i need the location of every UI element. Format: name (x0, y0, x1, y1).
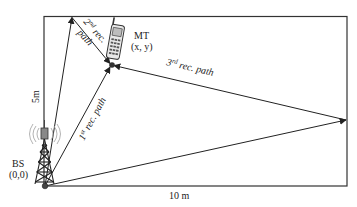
path-3-label: 3rd rec. path (165, 56, 216, 78)
bs-label: BS (12, 158, 24, 169)
multipath-diagram: BS (0,0) MT (x, y) 10 m 5m 1st rec. path… (0, 0, 357, 207)
path-3-segment-b (114, 66, 346, 121)
radio-tower-icon (30, 120, 61, 184)
path-1-label: 1st rec. path (76, 95, 108, 142)
bs-coords-label: (0,0) (9, 169, 28, 181)
mt-coords-label: (x, y) (131, 41, 153, 53)
room-width-label: 10 m (169, 190, 190, 201)
mt-label: MT (134, 30, 149, 41)
room-height-label: 5m (30, 90, 41, 103)
mt-receive-point (109, 62, 115, 68)
bs-origin-point (42, 183, 48, 189)
mobile-phone-icon (106, 17, 126, 60)
